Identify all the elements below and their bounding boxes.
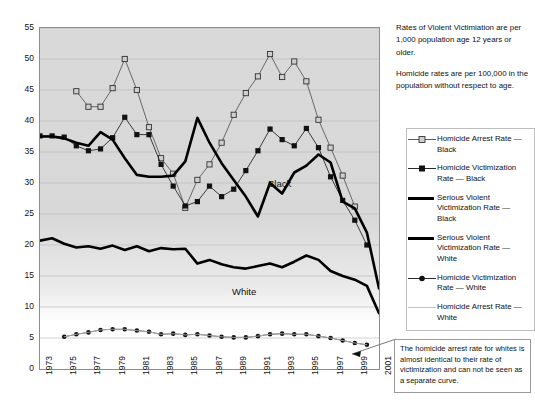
x-tick-label: 1979 [117, 356, 127, 375]
chart-area: 0510152025303540455055 19731975197719791… [0, 0, 392, 420]
chart-page: 0510152025303540455055 19731975197719791… [0, 0, 535, 420]
legend-swatch-filled-square-line [407, 163, 437, 174]
x-axis-labels: 1973197519771979198119831985198719891991… [0, 0, 392, 420]
x-tick-label: 1995 [310, 356, 320, 375]
x-tick-label: 1981 [141, 356, 151, 375]
callout-text: The homicide arrest rate for whites is a… [400, 344, 525, 385]
x-tick-label: 1985 [189, 356, 199, 375]
legend-item: Homicide Victimization Rate — Black [407, 163, 531, 184]
legend-label: Serious Violent Victimization Rate — Whi… [437, 233, 531, 265]
legend-label: Homicide Victimization Rate — White [437, 273, 531, 294]
x-tick-label: 1977 [92, 356, 102, 375]
notes-block: Rates of Violent Victimiation are per 1,… [396, 22, 530, 101]
note-homicide: Homicide rates are per 100,000 in the po… [396, 68, 530, 93]
note-violent: Rates of Violent Victimiation are per 1,… [396, 22, 530, 59]
legend: Homicide Arrest Rate — BlackHomicide Vic… [406, 128, 535, 331]
x-tick-label: 1993 [286, 356, 296, 375]
legend-swatch-thin-line [407, 302, 437, 313]
x-tick-label: 1991 [262, 356, 272, 375]
callout-box: The homicide arrest rate for whites is a… [394, 339, 531, 393]
legend-label: Serious Violent Victimization Rate — Bla… [437, 193, 531, 225]
legend-item: Homicide Victimization Rate — White [407, 273, 531, 294]
legend-label: Homicide Arrest Rate — White [437, 302, 531, 323]
legend-item: Homicide Arrest Rate — Black [407, 134, 531, 155]
black-series-label: Black [268, 178, 291, 189]
legend-swatch-thick-line [407, 193, 437, 204]
x-tick-label: 1987 [214, 356, 224, 375]
legend-item: Homicide Arrest Rate — White [407, 302, 531, 323]
x-tick-label: 1973 [44, 356, 54, 375]
callout-leader-line [338, 330, 398, 360]
x-tick-label: 1989 [238, 356, 248, 375]
legend-item: Serious Violent Victimization Rate — Whi… [407, 233, 531, 265]
white-series-label: White [232, 286, 256, 297]
legend-swatch-filled-dot-line [407, 273, 437, 284]
x-tick-label: 1975 [68, 356, 78, 375]
x-tick-label: 1983 [165, 356, 175, 375]
legend-label: Homicide Victimization Rate — Black [437, 163, 531, 184]
legend-swatch-open-square-line [407, 134, 437, 145]
legend-label: Homicide Arrest Rate — Black [437, 134, 531, 155]
legend-swatch-thick-line [407, 233, 437, 244]
legend-item: Serious Violent Victimization Rate — Bla… [407, 193, 531, 225]
